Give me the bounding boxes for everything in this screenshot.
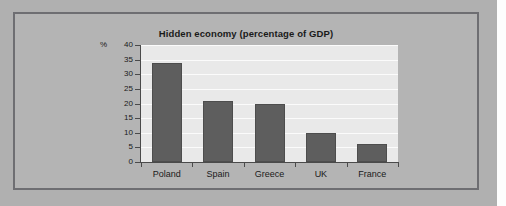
y-tick-label: 15	[111, 114, 133, 122]
x-tick-mark	[141, 163, 142, 167]
x-tick-mark	[295, 163, 296, 167]
x-tick-mark	[244, 163, 245, 167]
y-tick-mark	[135, 89, 140, 90]
x-axis-line	[140, 162, 399, 163]
y-axis-line	[140, 45, 141, 163]
bar	[255, 104, 285, 163]
y-axis-unit-label: %	[100, 40, 107, 49]
x-tick-label: France	[332, 169, 412, 180]
bar	[203, 101, 233, 162]
y-tick-label: 25	[111, 85, 133, 93]
y-tick-mark	[135, 74, 140, 75]
page-background: Hidden economy (percentage of GDP) % 051…	[0, 0, 506, 206]
y-tick-label: 5	[111, 143, 133, 151]
bar	[152, 63, 182, 162]
y-tick-mark	[135, 118, 140, 119]
y-tick-mark	[135, 162, 140, 163]
y-tick-label: 35	[111, 56, 133, 64]
x-tick-mark	[347, 163, 348, 167]
y-tick-label: 10	[111, 129, 133, 137]
y-tick-mark	[135, 147, 140, 148]
y-tick-mark	[135, 60, 140, 61]
gridline	[141, 45, 398, 46]
bar-chart: Hidden economy (percentage of GDP) % 051…	[15, 14, 477, 188]
chart-title: Hidden economy (percentage of GDP)	[15, 28, 477, 39]
bar	[357, 144, 387, 162]
y-tick-label: 20	[111, 100, 133, 108]
y-tick-mark	[135, 104, 140, 105]
y-tick-label: 0	[111, 158, 133, 166]
y-tick-label: 40	[111, 41, 133, 49]
y-tick-mark	[135, 45, 140, 46]
gridline	[141, 60, 398, 61]
y-tick-label: 30	[111, 70, 133, 78]
bar	[306, 133, 336, 162]
x-tick-mark	[398, 163, 399, 167]
y-tick-mark	[135, 133, 140, 134]
x-tick-mark	[192, 163, 193, 167]
plot-area	[141, 45, 398, 162]
page-right-margin	[497, 0, 506, 206]
chart-frame: Hidden economy (percentage of GDP) % 051…	[13, 12, 479, 190]
